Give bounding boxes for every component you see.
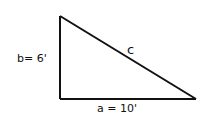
- side-c-hypotenuse: [60, 16, 196, 99]
- label-b: b= 6': [17, 52, 47, 65]
- label-c: c: [127, 42, 134, 57]
- triangle-diagram: b= 6' c a = 10': [0, 0, 211, 117]
- label-a: a = 10': [97, 102, 137, 115]
